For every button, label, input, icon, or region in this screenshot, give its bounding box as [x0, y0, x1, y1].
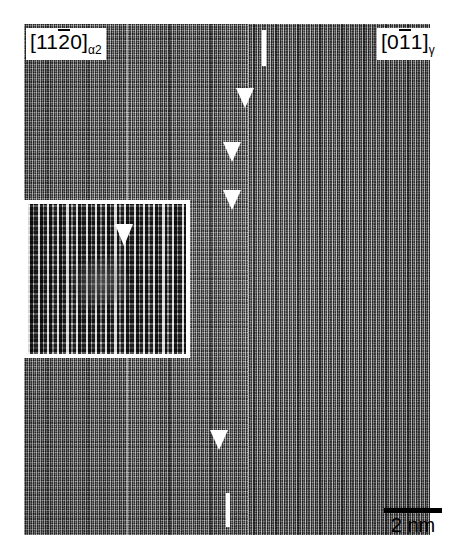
gamma-lattice-region [248, 24, 430, 535]
interface-arrowhead-4 [210, 430, 228, 450]
magnified-inset [24, 200, 190, 358]
zone-axis-indices-right-a: 0 [387, 30, 399, 53]
interface-arrowhead-3 [223, 190, 241, 210]
zone-axis-overbar-index-left: 2 [58, 31, 70, 52]
zone-axis-subscript-left: α2 [88, 43, 102, 57]
inset-arrowhead [115, 224, 133, 246]
scale-bar: 2 nm [375, 508, 451, 536]
zone-axis-label-alpha2: [1120]α2 [26, 28, 106, 60]
zone-axis-overbar-index-right: 1 [399, 31, 411, 52]
zone-axis-indices-left-a: 11 [36, 30, 58, 53]
zone-axis-indices-left-b: 0 [70, 30, 82, 53]
zone-axis-subscript-right: γ [429, 43, 435, 57]
scale-bar-label: 2 nm [375, 515, 451, 536]
scale-bar-line [384, 508, 442, 513]
interface-tick-bottom [226, 493, 230, 527]
interface-tick-top [262, 30, 266, 66]
figure-root: [1120]α2 [011]γ 2 nm [0, 0, 454, 556]
zone-axis-label-gamma: [011]γ [377, 28, 439, 60]
interface-arrowhead-1 [236, 88, 254, 108]
interface-arrowhead-2 [223, 142, 241, 162]
zone-axis-indices-right-b: 1 [411, 30, 423, 53]
inset-lattice-pattern [28, 204, 186, 354]
